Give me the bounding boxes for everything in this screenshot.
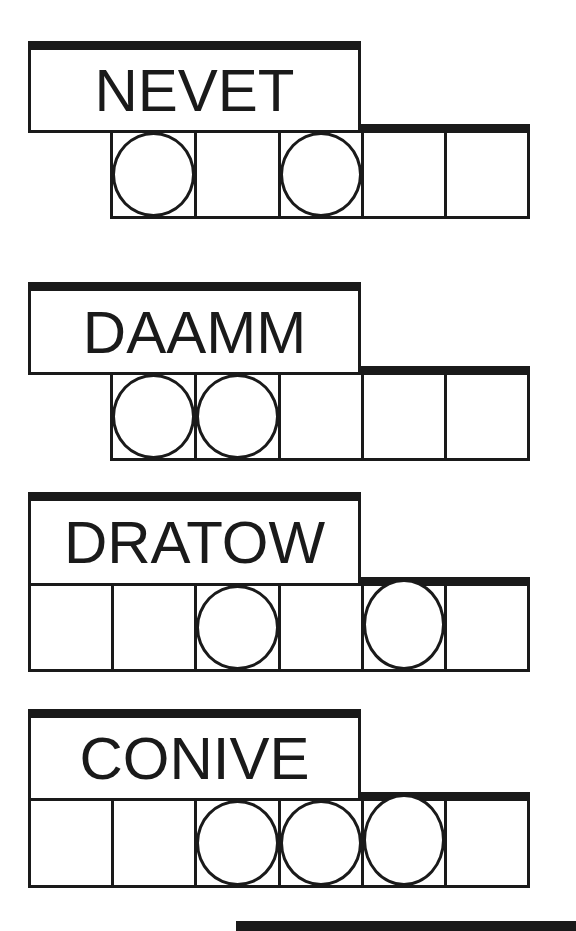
answer-cell-5[interactable]: [444, 366, 530, 461]
answer-cell-5[interactable]: [444, 124, 530, 219]
answer-cell-2[interactable]: [194, 130, 281, 219]
answer-cell-1[interactable]: [28, 583, 114, 672]
answer-cell-4[interactable]: [278, 798, 364, 888]
scrambled-word-box: DRATOW: [28, 492, 361, 586]
circle-marker-icon: [280, 132, 362, 217]
answer-cell-1[interactable]: [110, 130, 197, 219]
answer-cell-1[interactable]: [110, 372, 197, 461]
answer-cell-5[interactable]: [361, 577, 447, 672]
answer-cell-6[interactable]: [444, 792, 530, 888]
answer-cell-3[interactable]: [194, 798, 281, 888]
circle-marker-icon: [112, 374, 195, 459]
scrambled-word: CONIVE: [79, 729, 309, 789]
scrambled-word: NEVET: [94, 61, 294, 121]
answer-cell-3[interactable]: [278, 372, 364, 461]
circle-marker-icon: [196, 800, 279, 886]
answer-cell-3[interactable]: [278, 130, 364, 219]
scrambled-word-box: CONIVE: [28, 709, 361, 801]
circle-marker-icon: [196, 585, 279, 670]
circle-marker-icon: [196, 374, 279, 459]
circle-marker-icon: [363, 579, 445, 670]
answer-cell-4[interactable]: [278, 583, 364, 672]
circle-marker-icon: [112, 132, 195, 217]
answer-cell-5[interactable]: [361, 792, 447, 888]
answer-cell-2[interactable]: [111, 798, 197, 888]
final-answer-bar: [236, 921, 576, 931]
circle-marker-icon: [280, 800, 362, 886]
scrambled-word: DAAMM: [83, 303, 306, 363]
answer-cell-6[interactable]: [444, 577, 530, 672]
answer-cell-3[interactable]: [194, 583, 281, 672]
answer-cell-4[interactable]: [361, 366, 447, 461]
answer-cell-2[interactable]: [194, 372, 281, 461]
answer-cell-4[interactable]: [361, 124, 447, 219]
scrambled-word-box: NEVET: [28, 41, 361, 133]
scrambled-word: DRATOW: [64, 513, 325, 573]
circle-marker-icon: [363, 794, 445, 886]
answer-cell-1[interactable]: [28, 798, 114, 888]
scrambled-word-box: DAAMM: [28, 282, 361, 375]
answer-cell-2[interactable]: [111, 583, 197, 672]
